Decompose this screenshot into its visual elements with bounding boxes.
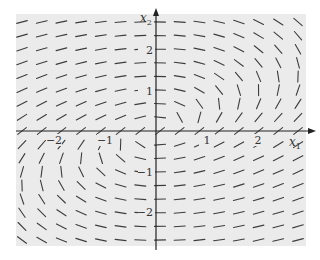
y-tick-label: 1 xyxy=(146,85,153,98)
slope-segment xyxy=(135,35,146,36)
y-tick-label: 2 xyxy=(146,44,153,57)
y-axis-arrow-icon xyxy=(153,8,159,16)
slope-segment xyxy=(135,240,146,241)
y-tick-label: −2 xyxy=(137,206,153,219)
x-tick-label: 1 xyxy=(204,134,211,147)
x-tick-label: −2 xyxy=(46,134,62,147)
direction-field-chart: −2−112−2−112 x1 x2 xyxy=(0,0,320,260)
x-tick-label: 2 xyxy=(255,134,262,147)
x-axis-arrow-icon xyxy=(308,128,316,134)
y-axis-label: x2 xyxy=(140,11,152,27)
slope-segment xyxy=(174,240,185,241)
slope-segment xyxy=(135,63,146,64)
slope-segment xyxy=(135,226,146,227)
x-tick-label: −1 xyxy=(97,134,113,147)
y-tick-label: −1 xyxy=(137,166,153,179)
